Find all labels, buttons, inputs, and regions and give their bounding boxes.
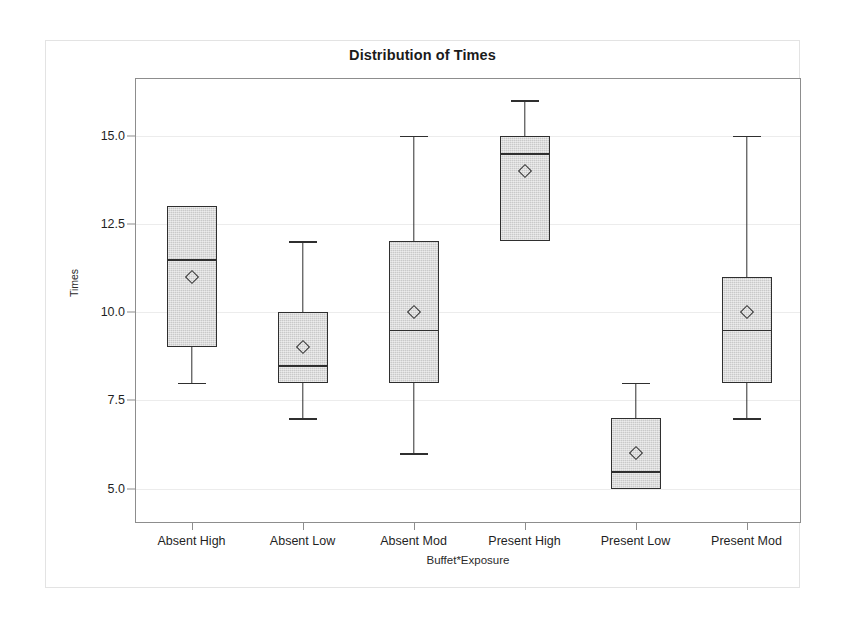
y-axis-title: Times — [68, 269, 80, 297]
gridline — [136, 400, 800, 401]
x-tick-mark — [414, 522, 415, 530]
whisker-cap-upper — [400, 136, 428, 138]
x-tick-mark — [747, 522, 748, 530]
gridline — [136, 489, 800, 490]
plot-area: 5.07.510.012.515.0 Absent HighAbsent Low… — [135, 78, 801, 523]
y-tick-label: 12.5 — [101, 217, 136, 231]
whisker-lower — [191, 347, 192, 382]
figure-frame: Distribution of Times Times 5.07.510.012… — [45, 40, 800, 588]
whisker-cap-upper — [511, 100, 539, 102]
median-line — [722, 330, 772, 332]
figure-canvas: { "chart_data": { "type": "box", "title"… — [0, 0, 841, 625]
median-line — [167, 259, 217, 261]
whisker-upper — [635, 383, 636, 418]
chart-title: Distribution of Times — [46, 47, 799, 63]
x-tick-label: Absent Low — [270, 534, 335, 548]
whisker-upper — [524, 100, 525, 135]
y-tick-label: 5.0 — [108, 482, 136, 496]
box-iqr — [500, 136, 550, 242]
whisker-lower — [302, 383, 303, 418]
median-line — [611, 471, 661, 473]
gridline — [136, 312, 800, 313]
whisker-cap-lower — [289, 418, 317, 420]
x-tick-label: Present High — [488, 534, 560, 548]
x-axis-title: Buffet*Exposure — [136, 554, 800, 566]
x-tick-mark — [192, 522, 193, 530]
median-line — [500, 153, 550, 155]
whisker-upper — [746, 136, 747, 277]
x-tick-label: Present Mod — [711, 534, 782, 548]
whisker-upper — [302, 241, 303, 312]
x-tick-label: Absent High — [157, 534, 225, 548]
median-line — [278, 365, 328, 367]
whisker-cap-lower — [400, 453, 428, 455]
whisker-lower — [413, 383, 414, 454]
whisker-cap-lower — [178, 383, 206, 385]
gridline — [136, 136, 800, 137]
whisker-cap-upper — [733, 136, 761, 138]
x-tick-label: Present Low — [601, 534, 670, 548]
x-tick-mark — [636, 522, 637, 530]
whisker-cap-lower — [733, 418, 761, 420]
whisker-cap-upper — [622, 383, 650, 385]
whisker-cap-upper — [289, 241, 317, 243]
x-tick-label: Absent Mod — [380, 534, 447, 548]
y-tick-label: 15.0 — [101, 129, 136, 143]
y-tick-label: 7.5 — [108, 393, 136, 407]
whisker-upper — [413, 136, 414, 242]
x-tick-mark — [303, 522, 304, 530]
y-tick-label: 10.0 — [101, 305, 136, 319]
x-tick-mark — [525, 522, 526, 530]
gridline — [136, 224, 800, 225]
median-line — [389, 330, 439, 332]
whisker-lower — [746, 383, 747, 418]
